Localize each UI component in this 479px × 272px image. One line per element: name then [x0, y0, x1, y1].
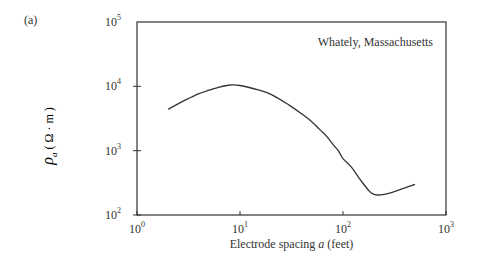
- y-tick-label: 104: [105, 77, 121, 93]
- chart: 100101102103 102103104105 Whately, Massa…: [0, 0, 479, 272]
- plot-frame: [137, 22, 446, 215]
- y-tick-label: 102: [105, 206, 121, 222]
- x-tick-label: 100: [129, 220, 145, 236]
- x-tick-label: 102: [335, 220, 351, 236]
- x-axis-label-text: Electrode spacing: [230, 237, 319, 251]
- x-tick-label: 101: [232, 220, 248, 236]
- site-annotation: Whately, Massachusetts: [318, 35, 434, 49]
- svg-text:ρa ( Ω · m ): ρa ( Ω · m ): [39, 107, 59, 165]
- y-tick-label: 105: [105, 13, 121, 29]
- y-tick-label: 103: [105, 142, 121, 158]
- resistivity-curve: [168, 85, 415, 195]
- y-axis-label: ρa ( Ω · m ): [39, 107, 59, 165]
- x-axis-label-unit: (feet): [324, 237, 353, 251]
- x-tick-label: 103: [438, 220, 454, 236]
- x-axis-label: Electrode spacing a (feet): [0, 237, 479, 252]
- y-axis-ticks: 102103104105: [105, 13, 141, 222]
